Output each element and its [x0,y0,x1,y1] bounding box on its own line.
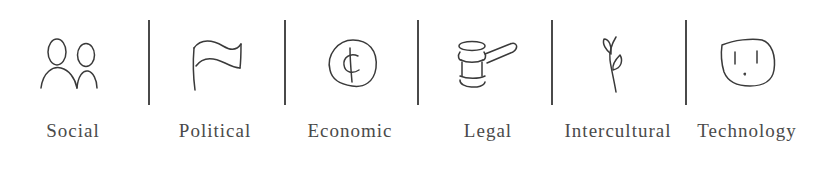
gavel-icon [455,30,525,100]
label-intercultural: Intercultural [565,120,672,142]
cent-coin-icon [320,30,390,100]
label-social: Social [46,120,100,142]
category-icon-row: Social Political Economic [0,0,814,169]
divider [551,20,553,105]
two-people-icon [37,30,107,100]
label-technology: Technology [697,120,796,142]
divider [284,20,286,105]
label-legal: Legal [464,120,512,142]
label-economic: Economic [307,120,392,142]
power-outlet-icon [714,30,784,100]
label-political: Political [179,120,251,142]
flag-icon [183,30,253,100]
divider [417,20,419,105]
divider [148,20,150,105]
sprout-icon [584,30,654,100]
divider [685,20,687,105]
